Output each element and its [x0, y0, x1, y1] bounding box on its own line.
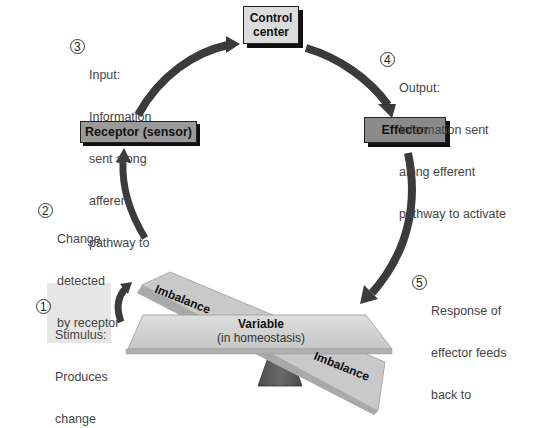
arrow-receptor-to-control	[138, 36, 240, 115]
step-4-line: Output:	[399, 81, 506, 95]
step-2-number-icon: 2	[38, 203, 53, 218]
step-3-number-icon: 3	[70, 39, 85, 54]
step-1-line: Produces	[55, 370, 112, 384]
step-3-line: Input:	[89, 68, 152, 82]
step-3-line: sent along	[89, 152, 152, 166]
step-5-line: back to	[431, 388, 517, 402]
step-4-number-icon: 4	[380, 52, 395, 67]
step-5-line: Response of	[431, 304, 517, 318]
variable-title: Variable	[238, 317, 284, 331]
step-3-line: Information	[89, 110, 152, 124]
variable-subtitle: (in homeostasis)	[217, 331, 305, 345]
step-5-line: effector feeds	[431, 346, 517, 360]
step-4-line: along efferent	[399, 165, 506, 179]
step-1-label: 1 Stimulus: Produces change in variable	[29, 286, 112, 428]
step-4-label: 4 Output: Information sent along efferen…	[373, 39, 506, 249]
step-2-line: Change	[57, 232, 120, 246]
arrow-stimulus	[118, 282, 132, 322]
control-center-label-line2: center	[244, 25, 298, 39]
control-center-label-line1: Control	[244, 11, 298, 25]
step-4-line: Information sent	[399, 123, 506, 137]
step-1-line: Stimulus:	[55, 328, 112, 342]
step-5-label: 5 Response of effector feeds back to inf…	[405, 262, 517, 428]
step-1-number-icon: 1	[36, 299, 51, 314]
step-4-line: pathway to activate	[399, 207, 506, 221]
control-center-node: Control center	[243, 6, 299, 44]
step-5-number-icon: 5	[412, 275, 427, 290]
step-1-line: change	[55, 412, 112, 426]
